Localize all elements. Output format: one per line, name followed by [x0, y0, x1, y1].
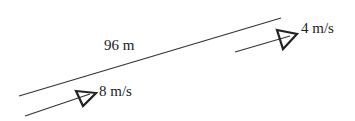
object-a-arrow-icon — [76, 91, 96, 106]
track-line — [19, 18, 281, 96]
object-b-arrow-icon — [277, 30, 297, 49]
object-b-speed-label: 4 m/s — [301, 20, 334, 36]
track-length-label: 96 m — [104, 37, 135, 53]
diagram-svg: 96 m 8 m/s 4 m/s — [0, 0, 355, 121]
diagram-canvas: 96 m 8 m/s 4 m/s — [0, 0, 355, 121]
object-a-speed-label: 8 m/s — [99, 83, 132, 99]
object-a-path — [25, 94, 90, 116]
